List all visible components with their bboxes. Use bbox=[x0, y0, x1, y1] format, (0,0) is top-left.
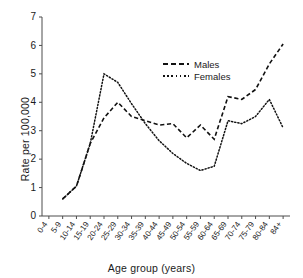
legend-label-females: Females bbox=[194, 71, 230, 82]
y-tick-label: 1 bbox=[30, 182, 36, 193]
chart-plot-area: 01234567 0-45-910-1415-1920-2425-2930-34… bbox=[0, 0, 303, 278]
legend-swatch-males-icon bbox=[163, 63, 189, 65]
x-axis: 0-45-910-1415-1920-2425-2930-3435-3940-4… bbox=[36, 216, 290, 242]
legend-item-males: Males bbox=[163, 58, 230, 70]
legend-label-males: Males bbox=[194, 59, 219, 70]
y-tick-label: 0 bbox=[30, 210, 36, 221]
y-tick-label: 7 bbox=[30, 11, 36, 22]
x-axis-title: Age group (years) bbox=[0, 262, 303, 274]
y-tick-label: 5 bbox=[30, 68, 36, 79]
y-tick-label: 6 bbox=[30, 40, 36, 51]
x-tick-label: 80-84 bbox=[251, 220, 270, 242]
y-tick-label: 2 bbox=[30, 153, 36, 164]
chart-container: Rate per 100,000 01234567 0-45-910-1415-… bbox=[0, 0, 303, 278]
y-tick-label: 4 bbox=[30, 96, 36, 107]
legend-swatch-females-icon bbox=[163, 75, 189, 77]
x-tick-group: 0-45-910-1415-1920-2425-2930-3435-3940-4… bbox=[36, 216, 284, 242]
y-tick-group: 01234567 bbox=[30, 11, 42, 221]
legend-item-females: Females bbox=[163, 70, 230, 82]
y-tick-label: 3 bbox=[30, 125, 36, 136]
chart-legend: Males Females bbox=[163, 58, 230, 82]
series-line-females bbox=[63, 74, 283, 199]
y-axis: 01234567 bbox=[30, 11, 42, 221]
x-tick-label: 84+ bbox=[269, 220, 284, 237]
x-tick-label: 0-4 bbox=[36, 220, 50, 235]
